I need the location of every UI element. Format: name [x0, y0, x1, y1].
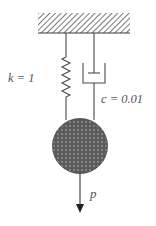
spring	[62, 33, 70, 120]
force-label: p	[89, 186, 97, 201]
spring-constant-label: k = 1	[8, 71, 34, 85]
damping-coefficient-label: c = 0.01	[101, 92, 143, 106]
damper	[83, 33, 105, 120]
force-arrow	[76, 173, 84, 213]
spring-coil	[62, 33, 70, 120]
mass-ball	[53, 119, 108, 174]
fixed-support	[38, 13, 130, 33]
mass-spring-damper-diagram: k = 1 c = 0.01 p	[0, 0, 156, 226]
arrow-down-icon	[76, 204, 84, 213]
hatched-ceiling	[38, 13, 130, 33]
